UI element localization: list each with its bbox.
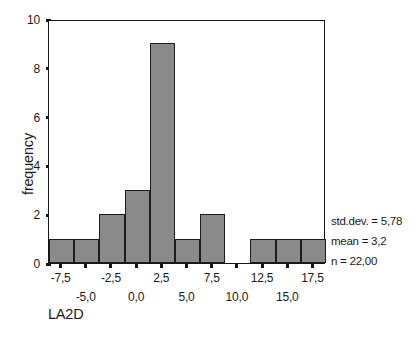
x-axis-tick-label: 7,5 bbox=[189, 272, 235, 284]
x-axis-tick-label: 5,0 bbox=[164, 291, 210, 303]
histogram-bar bbox=[49, 239, 74, 263]
x-axis-tick-label: 2,5 bbox=[138, 272, 184, 284]
histogram-bar bbox=[150, 43, 175, 263]
y-axis-tick-label: 0 bbox=[6, 258, 40, 270]
x-axis-tick-label: 15,0 bbox=[264, 291, 310, 303]
y-axis-tick-label: 8 bbox=[6, 63, 40, 75]
histogram-bar bbox=[175, 239, 200, 263]
x-axis-tick-mark bbox=[210, 263, 213, 268]
x-axis-tick-label: 12,5 bbox=[239, 272, 285, 284]
mean-annotation: mean = 3,2 bbox=[331, 231, 415, 251]
n-annotation: n = 22,00 bbox=[331, 251, 415, 271]
x-axis-tick-mark bbox=[185, 263, 188, 268]
x-axis-tick-mark bbox=[311, 263, 314, 268]
x-axis-tick-label: 17,5 bbox=[289, 272, 335, 284]
plot-area bbox=[48, 20, 325, 264]
std-dev-annotation: std.dev. = 5,78 bbox=[331, 211, 415, 231]
x-axis-title: LA2D bbox=[48, 306, 83, 322]
histogram-bar bbox=[99, 214, 124, 263]
x-axis-tick-mark bbox=[160, 263, 163, 268]
histogram-bar bbox=[301, 239, 326, 263]
histogram-bar bbox=[74, 239, 99, 263]
histogram-bar bbox=[250, 239, 275, 263]
x-axis-tick-mark bbox=[109, 263, 112, 268]
x-axis-tick-label: -5,0 bbox=[63, 291, 109, 303]
histogram-chart: 0246810 -7,5-5,0-2,50,02,55,07,510,012,5… bbox=[0, 0, 415, 337]
histogram-bar bbox=[125, 190, 150, 263]
x-axis-tick-label: 0,0 bbox=[113, 291, 159, 303]
y-axis-tick-label: 10 bbox=[6, 14, 40, 26]
x-axis-tick-label: -2,5 bbox=[88, 272, 134, 284]
histogram-bar bbox=[200, 214, 225, 263]
y-axis-title: frequency bbox=[20, 114, 36, 214]
x-axis-tick-mark bbox=[261, 263, 264, 268]
x-axis-tick-label: -7,5 bbox=[38, 272, 84, 284]
x-axis-tick-label: 10,0 bbox=[214, 291, 260, 303]
x-axis-tick-mark bbox=[84, 263, 87, 268]
x-axis-tick-mark bbox=[235, 263, 238, 268]
x-axis-tick-mark bbox=[286, 263, 289, 268]
histogram-bar bbox=[276, 239, 301, 263]
x-axis-tick-mark bbox=[135, 263, 138, 268]
bar-series bbox=[49, 21, 324, 263]
x-axis-tick-mark bbox=[59, 263, 62, 268]
stats-annotation-block: std.dev. = 5,78 mean = 3,2 n = 22,00 bbox=[331, 211, 415, 271]
